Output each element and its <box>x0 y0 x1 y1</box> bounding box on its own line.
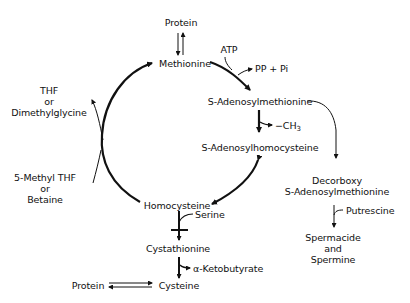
methylthf-label-line2: or <box>40 183 50 194</box>
cysteine-label: Cysteine <box>159 280 199 291</box>
thf-label-line2: or <box>44 96 54 107</box>
sah-homocysteine-arrow <box>212 160 258 204</box>
methionine-to-sam-arrow <box>210 62 250 90</box>
serine-in-line <box>179 214 193 222</box>
dcsam-label-line2: S-Adenosylmethionine <box>285 186 389 197</box>
thf-label-line1: THF <box>40 85 58 96</box>
sam-label: S-Adenosylmethionine <box>208 96 312 107</box>
ch3-out-arrow <box>260 122 272 125</box>
sah-label: S-Adenosylhomocysteine <box>201 142 318 153</box>
ch3-text: −CH <box>275 120 296 131</box>
ch3-subscript: 3 <box>296 125 300 133</box>
methylthf-in-line <box>93 150 101 183</box>
methylthf-label-line3: Betaine <box>27 194 63 205</box>
atp-in-line <box>225 57 232 70</box>
methionine-cycle-diagram: Protein Methionine ATP PP + Pi S-Adenosy… <box>0 0 410 303</box>
protein-top-label: Protein <box>165 17 198 28</box>
spermidine-label-line3: Spermine <box>311 254 356 265</box>
spermidine-label-line2: and <box>324 243 342 254</box>
spermidine-label-line1: Spermacide <box>305 232 360 243</box>
ketobutyrate-label: α-Ketobutyrate <box>193 263 263 274</box>
dcsam-label-line1: Decorboxy <box>312 175 362 186</box>
ketobutyrate-out-arrow <box>180 265 190 268</box>
protein-methionine-arrows <box>178 33 183 55</box>
atp-label: ATP <box>221 44 238 55</box>
cystathionine-label: Cystathionine <box>146 243 210 254</box>
methionine-label: Methionine <box>159 58 211 69</box>
thf-label-line3: Dimethylglycine <box>11 107 87 118</box>
putrescine-in-line <box>334 210 343 215</box>
remethylation-arc <box>102 63 152 202</box>
pp-pi-label: PP + Pi <box>255 63 288 74</box>
thf-out-arrow <box>92 100 103 140</box>
protein-bottom-label: Protein <box>72 280 105 291</box>
pppi-out-arrow <box>238 69 252 75</box>
ch3-label: −CH3 <box>275 120 301 135</box>
protein-cysteine-arrows <box>109 283 152 287</box>
methylthf-label-line1: 5-Methyl THF <box>14 172 76 183</box>
putrescine-label: Putrescine <box>346 205 395 216</box>
serine-label: Serine <box>195 209 225 220</box>
